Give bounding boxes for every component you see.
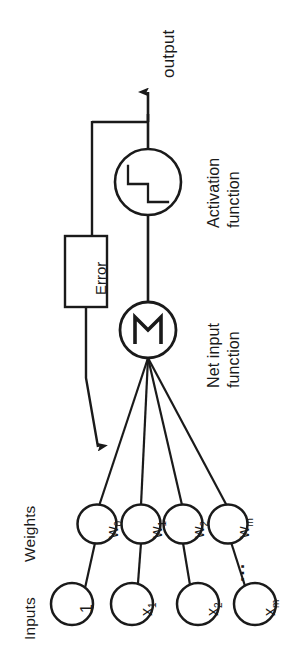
input-node-x2-label: x2 (205, 602, 224, 616)
weight-w2-sub: 2 (199, 521, 210, 527)
edge-bias-w0 (85, 543, 95, 588)
input-x2-base: x (204, 608, 221, 616)
weight-wm-sub: m (244, 518, 255, 526)
perceptron-diagram: output Error Activation function Net inp… (0, 0, 287, 665)
input-node-x1-label: x1 (139, 602, 158, 616)
weights-label: Weights (22, 506, 38, 562)
input-bias-base: 1 (78, 604, 95, 613)
weight-node-w0-label: w0 (105, 521, 124, 538)
weight-w0-sub: 0 (113, 521, 124, 527)
input-to-weight-edges (85, 542, 245, 588)
weight-w1-base: w (148, 526, 165, 538)
edge-x1-w1 (138, 543, 141, 583)
weight-node-wm-label: wm (236, 518, 255, 538)
error-update-arrow (86, 307, 98, 447)
inputs-label: Inputs (22, 597, 38, 640)
input-x1-sub: 1 (147, 602, 158, 608)
summation-node (120, 302, 176, 358)
weight-wm-base: w (235, 526, 252, 538)
input-xm-sub: m (270, 600, 281, 608)
error-label: Error (93, 262, 108, 295)
edge-x2-w2 (183, 543, 190, 585)
ellipsis-label: ... (229, 562, 247, 582)
weight-w0-base: w (104, 526, 121, 538)
net-input-function-label-line2: function (226, 331, 242, 388)
input-x2-sub: 2 (213, 602, 224, 608)
weight-w2-base: w (190, 526, 207, 538)
input-x1-base: x (138, 608, 155, 616)
input-node-bias-label: 1 (79, 604, 98, 613)
input-node-xm-label: xm (262, 600, 281, 616)
activation-function-label-line1: Activation (206, 158, 222, 228)
edge-w0-sum (99, 358, 148, 506)
weight-w1-sub: 1 (157, 521, 168, 527)
edge-w2-sum (148, 358, 182, 505)
net-input-function-label-line1: Net input (206, 323, 222, 388)
edge-w1-sum (141, 358, 148, 505)
output-label: output (160, 30, 177, 78)
activation-node (115, 149, 181, 215)
activation-node-circle (115, 149, 181, 215)
weight-node-w1-label: w1 (149, 521, 168, 538)
activation-function-label-line2: function (226, 171, 242, 228)
input-xm-base: x (261, 608, 278, 616)
weight-node-w2-label: w2 (191, 521, 210, 538)
